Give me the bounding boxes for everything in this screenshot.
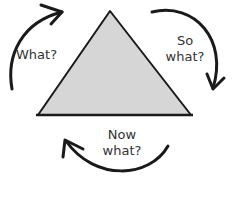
so-what-line1: So [160,33,210,49]
now-what-line2: what? [97,143,147,159]
diagram-canvas [0,0,234,198]
reflective-cycle-diagram: What? So what? Now what? [0,0,234,198]
label-so-what: So what? [160,33,210,65]
what-text: What? [16,47,57,62]
label-now-what: Now what? [97,127,147,159]
label-what: What? [16,47,57,63]
now-what-line1: Now [97,127,147,143]
so-what-line2: what? [160,49,210,65]
